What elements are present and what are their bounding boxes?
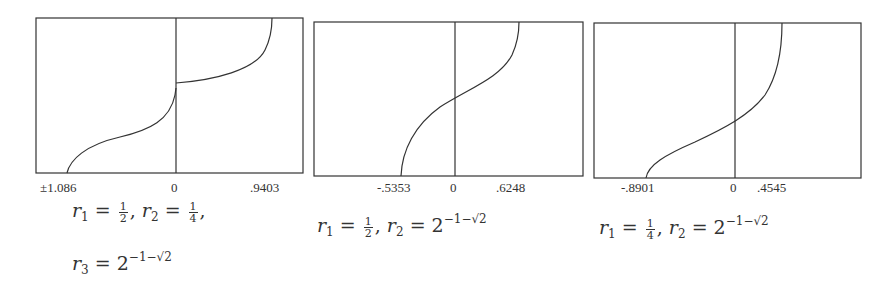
panel-2-tick-right: .6248: [496, 180, 525, 196]
plots-canvas: [0, 0, 882, 289]
panel-3-tick-zero: 0: [730, 180, 737, 196]
panel-2-curve: [401, 22, 519, 176]
fraction: 12: [364, 216, 373, 239]
fraction: 14: [646, 218, 655, 241]
panel-3-curve: [646, 23, 782, 178]
panel-1-tick-left: ±1.086: [40, 180, 76, 196]
panel-1-frame: [36, 18, 303, 173]
panel-1-caption-line-2: r3 = 2−1−√2: [72, 250, 172, 277]
panel-1-tick-right: .9403: [250, 180, 279, 196]
panel-3-tick-left: -.8901: [621, 180, 655, 196]
fraction: 12: [119, 201, 128, 224]
panel-2-tick-left: -.5353: [377, 180, 411, 196]
panel-1-curve-left: [67, 88, 176, 173]
panel-1: [36, 18, 303, 173]
panel-1-tick-zero: 0: [171, 180, 178, 196]
fraction: 14: [189, 201, 198, 224]
panel-2: [314, 22, 583, 176]
panel-3-tick-right: .4545: [757, 180, 786, 196]
panel-3-caption: r1 = 14, r2 = 2−1−√2: [599, 214, 769, 241]
panel-1-curve-right: [176, 18, 272, 83]
panel-2-tick-zero: 0: [450, 180, 457, 196]
panel-2-frame: [314, 22, 583, 176]
panel-3-frame: [594, 23, 861, 178]
panel-2-caption: r1 = 12, r2 = 2−1−√2: [317, 212, 487, 239]
panel-3: [594, 23, 861, 178]
panel-1-caption-line-1: r1 = 12, r2 = 14,: [72, 199, 206, 224]
